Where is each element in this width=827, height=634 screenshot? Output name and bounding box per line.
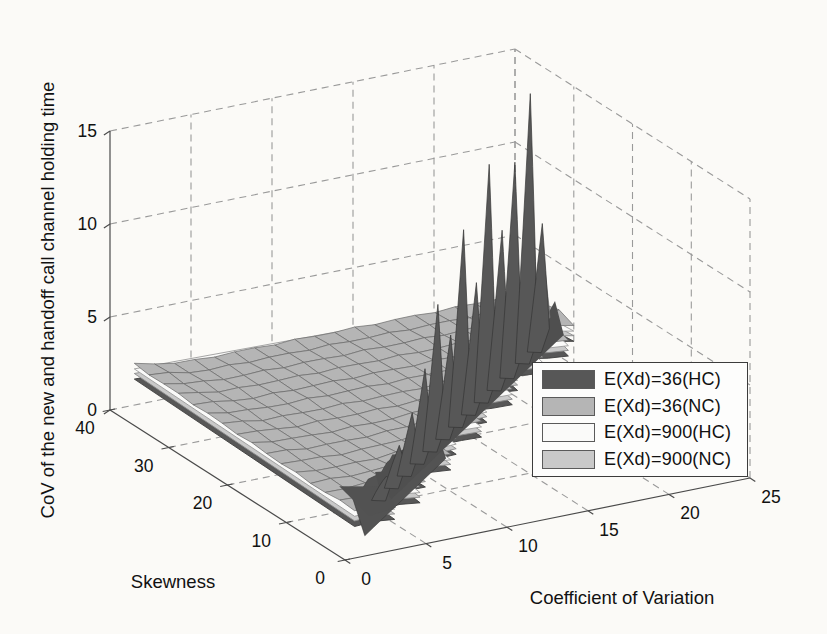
z-tick-label: 0 [87, 400, 97, 420]
x-tick-label: 15 [599, 520, 618, 540]
sk-tick-label: 10 [252, 531, 272, 551]
legend-item: E(Xd)=900(HC) [533, 420, 747, 446]
sk-tick-label: 20 [193, 493, 213, 513]
legend-label: E(Xd)=900(HC) [604, 422, 731, 443]
legend-item: E(Xd)=900(NC) [533, 446, 747, 472]
sk-tick-label: 30 [134, 456, 154, 476]
z-tick-label: 15 [78, 121, 97, 141]
legend-label: E(Xd)=900(NC) [604, 449, 731, 470]
x-tick-label: 0 [361, 569, 371, 589]
legend-swatch [542, 397, 595, 416]
x-tick-label: 10 [518, 536, 538, 556]
legend-swatch [542, 370, 595, 389]
legend: E(Xd)=36(HC)E(Xd)=36(NC)E(Xd)=900(HC)E(X… [532, 362, 748, 477]
legend-swatch [542, 423, 595, 442]
sk-tick-label: 0 [315, 568, 325, 588]
x-tick-label: 5 [442, 553, 452, 573]
z-axis-label: CoV of the new and handoff call channel … [37, 82, 58, 519]
legend-item: E(Xd)=36(HC) [533, 367, 747, 393]
surface-plot-canvas: 0510152025010203040051015Coefficient of … [0, 0, 827, 634]
x-tick-label: 20 [680, 503, 700, 523]
legend-item: E(Xd)=36(NC) [533, 393, 747, 419]
z-tick-label: 5 [87, 307, 97, 327]
legend-label: E(Xd)=36(HC) [604, 369, 721, 390]
sk-tick-label: 40 [75, 418, 95, 438]
x-tick-label: 25 [761, 487, 780, 507]
figure-3d-surface: 0510152025010203040051015Coefficient of … [0, 0, 827, 634]
legend-swatch [542, 450, 595, 469]
z-tick-label: 10 [78, 214, 98, 234]
legend-label: E(Xd)=36(NC) [604, 396, 721, 417]
skewness-axis-label: Skewness [131, 571, 215, 592]
x-axis-label: Coefficient of Variation [530, 587, 714, 608]
